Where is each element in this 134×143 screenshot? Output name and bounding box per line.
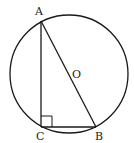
- geometry-diagram: A O C B: [0, 0, 134, 143]
- label-o: O: [72, 68, 81, 81]
- label-a: A: [34, 5, 44, 18]
- right-angle-marker: [41, 116, 52, 127]
- segment-ab-diameter: [41, 21, 96, 127]
- label-b: B: [95, 130, 103, 143]
- label-c: C: [36, 130, 44, 143]
